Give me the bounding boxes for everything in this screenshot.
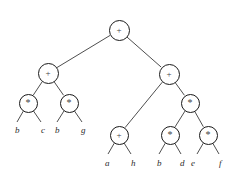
tree-edge	[124, 143, 131, 154]
tree-edge	[125, 82, 162, 128]
tree-edge	[213, 143, 219, 154]
tree-edge	[127, 37, 161, 67]
tree-edge	[175, 143, 181, 154]
tree-edge	[175, 111, 185, 127]
tree-leaf-h: h	[131, 158, 136, 168]
tree-leaf-b: b	[15, 125, 20, 135]
tree-edge	[74, 111, 82, 122]
tree-leaf-b: b	[55, 125, 60, 135]
tree-node-label: +	[45, 68, 50, 77]
expression-tree-figure: +++***+** bcbgahbdef	[0, 0, 238, 180]
tree-edge	[57, 111, 64, 122]
tree-edge	[175, 83, 184, 96]
tree-edge	[33, 82, 42, 95]
tree-node-plus: +	[109, 20, 130, 41]
tree-node-times: *	[161, 126, 180, 145]
tree-node-label: *	[206, 130, 211, 140]
tree-leaf-g: g	[81, 125, 86, 135]
tree-node-label: +	[166, 69, 171, 78]
tree-edge	[33, 111, 41, 122]
tree-leaf-e: e	[191, 158, 195, 168]
tree-node-plus: +	[38, 63, 59, 84]
tree-edge	[108, 143, 114, 154]
tree-node-times: *	[181, 94, 200, 113]
tree-leaf-a: a	[105, 158, 110, 168]
tree-edge	[54, 82, 64, 96]
tree-leaf-b: b	[157, 158, 162, 168]
tree-node-times: *	[60, 94, 79, 113]
tree-node-label: *	[26, 98, 31, 108]
tree-leaf-f: f	[219, 158, 222, 168]
tree-node-times: *	[19, 94, 38, 113]
tree-node-label: *	[188, 98, 193, 108]
tree-leaf-d: d	[180, 158, 185, 168]
tree-node-plus: +	[159, 64, 180, 85]
tree-node-label: +	[116, 130, 121, 139]
tree-edge	[197, 143, 203, 154]
tree-edge	[195, 111, 204, 126]
tree-leaf-c: c	[41, 125, 45, 135]
tree-node-label: *	[67, 98, 72, 108]
tree-edge	[57, 35, 110, 67]
tree-node-times: *	[199, 126, 218, 145]
tree-node-label: +	[116, 25, 121, 34]
tree-edge	[17, 111, 23, 122]
tree-node-plus: +	[110, 126, 129, 145]
tree-edge	[159, 143, 165, 154]
tree-node-label: *	[168, 130, 173, 140]
